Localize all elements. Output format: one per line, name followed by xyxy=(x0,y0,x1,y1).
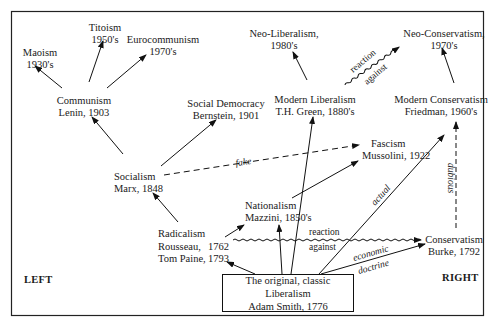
root-subtitle: Adam Smith, 1776 xyxy=(223,300,353,313)
node-date: 1762 xyxy=(208,241,229,252)
node-modern-liberalism: Modern Liberalism T.H. Green, 1880's xyxy=(274,94,355,118)
node-subtitle: Lenin, 1903 xyxy=(57,107,111,119)
node-titoism: Titoism 1950's xyxy=(89,22,121,46)
node-title: Neo-Liberalism, xyxy=(249,28,318,40)
node-person: Tom Paine, xyxy=(158,253,208,266)
label-against-mid: against xyxy=(309,242,336,252)
node-title: Titoism xyxy=(89,22,121,34)
node-conservatism: Conservatism Burke, 1792 xyxy=(425,234,483,258)
node-title: Radicalism xyxy=(158,228,229,241)
root-title: The original, classic Liberalism xyxy=(223,274,353,300)
side-label-right: RIGHT xyxy=(442,272,479,283)
node-radicalism: Radicalism Rousseau,1762 Tom Paine,1793 xyxy=(158,228,229,266)
node-subtitle: Mazzini, 1850's xyxy=(245,212,312,224)
label-fake: fake xyxy=(235,156,252,168)
edge-nationalism-fascism xyxy=(292,161,358,198)
node-date: 1970's xyxy=(127,46,199,58)
node-neo-conservatism: Neo-Conservatism, 1970's xyxy=(403,28,484,52)
node-subtitle: Bernstein, 1901 xyxy=(187,110,264,122)
node-communism: Communism Lenin, 1903 xyxy=(57,95,111,119)
node-title: Modern Liberalism xyxy=(274,94,355,106)
node-title: Fascism xyxy=(362,138,430,150)
label-against-top: against xyxy=(362,61,389,86)
label-actual: actual xyxy=(369,183,393,208)
node-title: Nationalism xyxy=(245,200,312,212)
node-title: Maoism xyxy=(23,47,57,59)
edge-radicalism-conservatism-reaction xyxy=(233,239,421,241)
side-label-left: LEFT xyxy=(24,274,53,285)
root-node-classic-liberalism: The original, classic Liberalism Adam Sm… xyxy=(222,274,354,312)
node-fascism: Fascism Mussolini, 1922 xyxy=(362,138,430,162)
node-date: 1793 xyxy=(208,253,229,264)
edge-socialism-social-democracy xyxy=(161,120,216,166)
edge-modern-conservatism-neo-conservatism xyxy=(442,48,454,83)
node-subtitle: T.H. Green, 1880's xyxy=(274,106,355,118)
node-social-democracy: Social Democracy Bernstein, 1901 xyxy=(187,98,264,122)
node-row: Rousseau,1762 xyxy=(158,241,229,254)
node-date: 1970's xyxy=(403,40,484,52)
edge-root-nationalism xyxy=(279,225,282,274)
node-maoism: Maoism 1930's xyxy=(23,47,57,71)
edge-radicalism-socialism xyxy=(153,193,178,222)
node-title: Socialism xyxy=(114,171,163,183)
edge-socialism-fascism-fake xyxy=(164,145,359,175)
node-socialism: Socialism Marx, 1848 xyxy=(114,171,163,195)
node-subtitle: Burke, 1792 xyxy=(425,246,483,258)
label-dubious: dubious xyxy=(446,163,456,193)
node-row: Tom Paine,1793 xyxy=(158,253,229,266)
node-date: 1980's xyxy=(249,40,318,52)
edge-root-radicalism xyxy=(227,262,255,274)
node-subtitle: Mussolini, 1922 xyxy=(362,150,430,162)
node-nationalism: Nationalism Mazzini, 1850's xyxy=(245,200,312,224)
node-title: Eurocommunism xyxy=(127,34,199,46)
node-date: 1930's xyxy=(23,59,57,71)
node-modern-conservatism: Modern Conservatism Friedman, 1960's xyxy=(394,94,488,118)
edge-communism-eurocommunism xyxy=(107,55,146,88)
node-neo-liberalism: Neo-Liberalism, 1980's xyxy=(249,28,318,52)
node-date: 1950's xyxy=(89,34,121,46)
edge-socialism-communism xyxy=(92,117,123,154)
node-subtitle: Marx, 1848 xyxy=(114,183,163,195)
node-title: Neo-Conservatism, xyxy=(403,28,484,40)
edge-communism-titoism xyxy=(89,41,103,82)
node-person: Rousseau, xyxy=(158,241,208,254)
node-title: Modern Conservatism xyxy=(394,94,488,106)
edge-modern-liberalism-neo-liberalism xyxy=(293,52,307,80)
node-title: Social Democracy xyxy=(187,98,264,110)
node-title: Conservatism xyxy=(425,234,483,246)
node-subtitle: Friedman, 1960's xyxy=(394,106,488,118)
node-title: Communism xyxy=(57,95,111,107)
label-reaction-mid: reaction xyxy=(309,227,340,237)
node-eurocommunism: Eurocommunism 1970's xyxy=(127,34,199,58)
